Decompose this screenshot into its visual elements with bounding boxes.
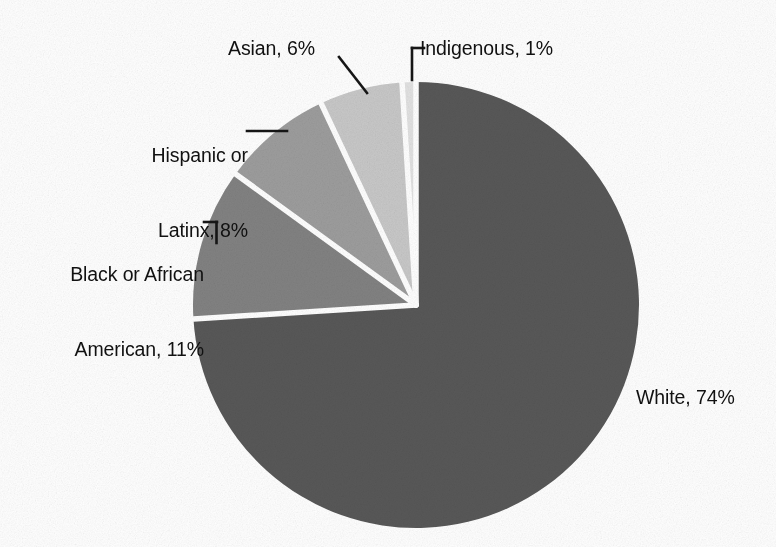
pie-label-black-or-african-american: Black or African American, 11% (34, 212, 204, 412)
leader-line-asian (339, 57, 367, 93)
pie-label-indigenous: Indigenous, 1% (420, 36, 600, 61)
pie-label-asian: Asian, 6% (228, 36, 340, 61)
pie-label-hispanic-or-latinx-line1: Hispanic or (120, 143, 248, 168)
pie-label-white: White, 74% (636, 385, 776, 410)
pie-label-black-or-african-american-line2: American, 11% (34, 337, 204, 362)
pie-chart: Asian, 6% Indigenous, 1% Hispanic or Lat… (0, 0, 776, 547)
pie-label-black-or-african-american-line1: Black or African (34, 262, 204, 287)
